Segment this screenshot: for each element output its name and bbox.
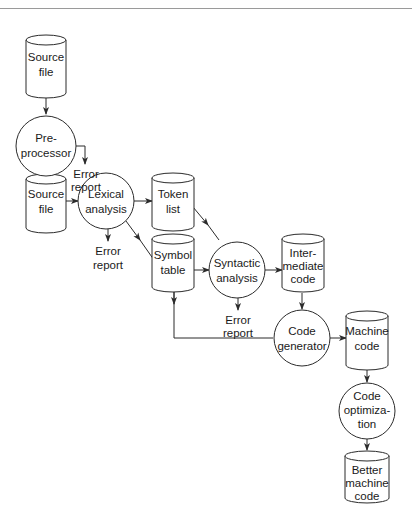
label-syntactic-analysis-l1: Syntactic: [214, 257, 261, 269]
node-symbol-table: [152, 234, 194, 292]
label-token-list-l1: Token: [158, 188, 189, 200]
label-preprocessor-l1: Pre-: [35, 132, 57, 144]
label-intermediate-code-l1: Inter-: [290, 247, 317, 259]
label-code-optimization-l2: optimiza-: [344, 404, 391, 416]
label-token-list-l2: list: [166, 203, 181, 215]
label-lexical-analysis-l2: analysis: [85, 203, 127, 215]
label-error-report-3-l1: Error: [225, 314, 251, 326]
label-syntactic-analysis-l2: analysis: [216, 272, 258, 284]
compilation-flow-diagram: Source file Pre- processor Error report …: [0, 0, 412, 522]
node-token-list: [152, 173, 194, 231]
label-error-report-2-l1: Error: [95, 245, 121, 257]
label-lexical-analysis-l1: Lexical: [88, 188, 124, 200]
label-symbol-table-l1: Symbol: [154, 249, 192, 261]
label-source-file-2-l1: Source: [28, 188, 64, 200]
node-preprocessor: [16, 116, 76, 176]
label-intermediate-code-l2: mediate: [283, 260, 324, 272]
label-better-machine-code-l2: machine: [345, 477, 388, 489]
label-source-file-1-l2: file: [39, 66, 54, 78]
label-code-optimization-l3: tion: [358, 418, 377, 430]
label-code-generator-l2: generator: [277, 340, 326, 352]
label-symbol-table-l2: table: [161, 264, 186, 276]
label-better-machine-code-l1: Better: [352, 464, 383, 476]
label-machine-code-l2: code: [355, 340, 380, 352]
label-intermediate-code-l3: code: [291, 273, 316, 285]
label-error-report-2-l2: report: [93, 259, 124, 271]
edge-token-to-syntactic-tail: [208, 225, 219, 240]
label-code-generator-l1: Code: [288, 325, 316, 337]
label-source-file-1-l1: Source: [28, 51, 64, 63]
label-error-report-3-l2: report: [223, 327, 254, 339]
edge-token-to-syntactic: [193, 207, 208, 225]
edge-preprocessor-to-error: [76, 146, 85, 164]
label-better-machine-code-l3: code: [355, 490, 380, 502]
label-machine-code-l1: Machine: [345, 325, 388, 337]
node-code-generator: [274, 310, 330, 366]
label-preprocessor-l2: processor: [21, 147, 72, 159]
label-source-file-2-l2: file: [39, 203, 54, 215]
edge-lexical-to-symbol: [126, 221, 140, 240]
label-error-report-1-l1: Error: [73, 168, 99, 180]
label-code-optimization-l1: Code: [353, 390, 381, 402]
node-syntactic-analysis: [209, 242, 265, 298]
